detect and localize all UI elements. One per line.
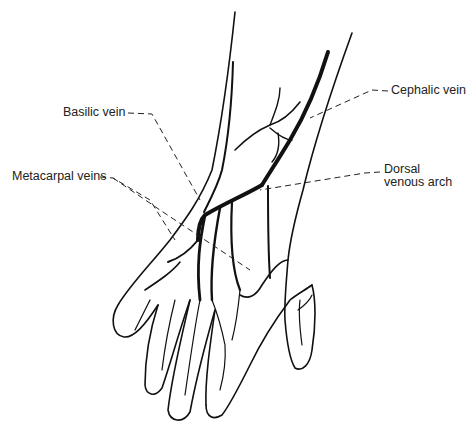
leader-basilic (128, 113, 200, 200)
label-basilic-vein: Basilic vein (63, 106, 126, 119)
label-metacarpal-veins: Metacarpal veins (12, 170, 107, 183)
metacarpal-vein-2 (211, 208, 220, 300)
leader-cephalic (310, 90, 388, 118)
leader-metacarpal (100, 177, 175, 240)
metacarpal-vein-4 (268, 186, 270, 278)
label-venous-arch: venous arch (384, 176, 452, 189)
metacarpal-vein-3 (231, 202, 240, 290)
leader-dorsal-arch (260, 172, 380, 190)
veins (135, 52, 328, 395)
leader-lines (100, 90, 388, 270)
label-cephalic-vein: Cephalic vein (391, 84, 466, 97)
dorsal-venous-arch (198, 185, 262, 240)
hand-vein-diagram: Basilic vein Metacarpal veins Cephalic v… (0, 0, 466, 435)
hand-illustration (0, 0, 466, 435)
